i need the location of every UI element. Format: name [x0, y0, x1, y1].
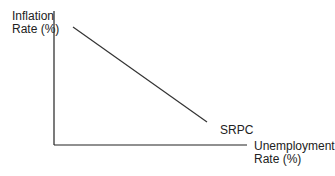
- y-axis-label: Inflation Rate (%): [12, 10, 59, 36]
- x-axis-label-line-2: Rate (%): [254, 153, 335, 166]
- x-axis-label: Unemployment Rate (%): [254, 140, 335, 166]
- srpc-curve: [73, 27, 207, 122]
- srpc-label: SRPC: [220, 124, 253, 137]
- y-axis-label-line-2: Rate (%): [12, 23, 59, 36]
- srpc-diagram: Inflation Rate (%) SRPC Unemployment Rat…: [0, 0, 335, 176]
